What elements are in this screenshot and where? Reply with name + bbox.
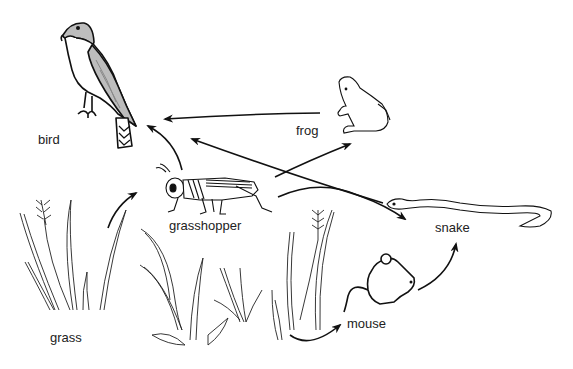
- label-snake: snake: [435, 220, 470, 235]
- mouse-icon: [344, 254, 414, 312]
- grasshopper-icon: [156, 164, 272, 214]
- arrow-grasshopper-to-bird: [148, 126, 182, 170]
- arrow-grass-to-mouse: [290, 325, 340, 341]
- bird-icon: [61, 23, 136, 148]
- frog-icon: [338, 77, 390, 133]
- label-bird: bird: [38, 132, 60, 147]
- food-web-diagram: bird frog grasshopper snake mouse grass: [0, 0, 573, 369]
- food-web-arrows: [108, 113, 456, 341]
- arrow-frog-to-bird: [165, 113, 320, 119]
- arrow-mouse-to-snake: [418, 244, 456, 290]
- label-grass: grass: [50, 330, 82, 345]
- arrow-grasshopper-to-snake: [278, 187, 405, 219]
- label-grasshopper: grasshopper: [169, 218, 241, 233]
- label-frog: frog: [296, 123, 318, 138]
- label-mouse: mouse: [347, 316, 386, 331]
